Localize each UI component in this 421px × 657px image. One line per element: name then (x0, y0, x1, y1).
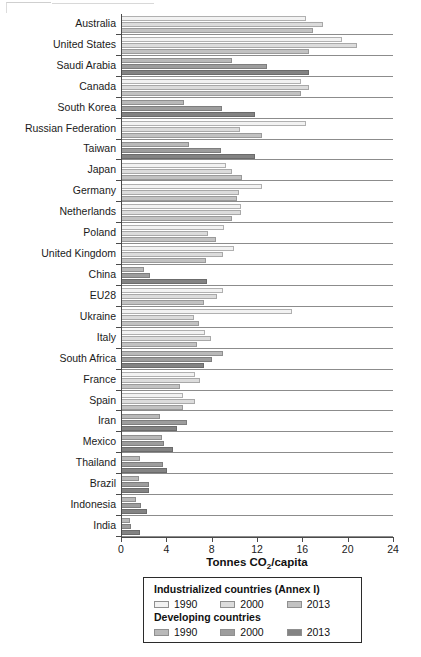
legend-group-title-developing: Developing countries (154, 611, 353, 624)
gridline (121, 327, 393, 328)
bar-indonesia-1990 (121, 497, 136, 502)
bar-thailand-2000 (121, 462, 163, 467)
category-label-russian-federation: Russian Federation (4, 123, 116, 134)
legend-swatch-developing-2013 (287, 629, 302, 636)
bar-united-kingdom-2013 (121, 258, 206, 263)
category-label-china: China (4, 269, 116, 280)
category-label-brazil: Brazil (4, 478, 116, 489)
x-tick-label-16: 16 (287, 543, 317, 555)
bar-south-korea-2000 (121, 106, 222, 111)
chart-legend: Industrialized countries (Annex I) 19902… (143, 577, 362, 643)
category-label-iran: Iran (4, 415, 116, 426)
bar-taiwan-2013 (121, 154, 255, 159)
category-label-indonesia: Indonesia (4, 499, 116, 510)
legend-group-title-industrialized: Industrialized countries (Annex I) (154, 583, 353, 596)
legend-item-industrialized-2000[interactable]: 2000 (220, 598, 286, 610)
x-tick-label-8: 8 (197, 543, 227, 555)
legend-row-developing: 199020002013 (154, 626, 353, 638)
bar-china-2013 (121, 279, 207, 284)
bar-canada-2013 (121, 91, 301, 96)
category-label-france: France (4, 374, 116, 385)
y-axis-tick (116, 431, 121, 432)
x-tick-24 (393, 537, 394, 542)
bar-indonesia-2013 (121, 509, 147, 514)
gridline (121, 243, 393, 244)
gridline (121, 348, 393, 349)
bar-india-2013 (121, 530, 140, 535)
gridline (121, 34, 393, 35)
bar-canada-2000 (121, 85, 309, 90)
legend-label-industrialized-2013: 2013 (307, 598, 330, 610)
x-tick-label-24: 24 (378, 543, 408, 555)
y-axis-line (121, 14, 122, 537)
y-axis-tick (116, 34, 121, 35)
y-axis-tick (116, 473, 121, 474)
bar-thailand-2013 (121, 468, 167, 473)
bar-south-korea-1990 (121, 100, 184, 105)
gridline (121, 222, 393, 223)
gridline (121, 201, 393, 202)
y-axis-tick (116, 243, 121, 244)
bar-france-1990 (121, 372, 195, 377)
legend-swatch-industrialized-2013 (287, 601, 302, 608)
category-label-united-states: United States (4, 39, 116, 50)
legend-item-developing-1990[interactable]: 1990 (154, 626, 220, 638)
x-tick-16 (302, 537, 303, 542)
x-tick-label-20: 20 (333, 543, 363, 555)
bar-japan-2013 (121, 175, 242, 180)
bar-russian-federation-2000 (121, 127, 240, 132)
bar-netherlands-1990 (121, 204, 241, 209)
y-axis-tick (116, 118, 121, 119)
bar-canada-1990 (121, 79, 301, 84)
bar-eu28-1990 (121, 288, 223, 293)
category-label-japan: Japan (4, 164, 116, 175)
y-axis-tick (116, 55, 121, 56)
bar-thailand-1990 (121, 456, 140, 461)
gridline (121, 76, 393, 77)
y-axis-tick (116, 180, 121, 181)
y-axis-tick (116, 390, 121, 391)
y-axis-tick (116, 76, 121, 77)
y-axis-tick (116, 264, 121, 265)
legend-swatch-industrialized-2000 (220, 601, 235, 608)
gridline (121, 180, 393, 181)
bar-italy-1990 (121, 330, 205, 335)
category-label-canada: Canada (4, 81, 116, 92)
legend-label-developing-1990: 1990 (174, 626, 197, 638)
gridline (121, 285, 393, 286)
legend-item-industrialized-2013[interactable]: 2013 (287, 598, 353, 610)
bar-eu28-2013 (121, 300, 204, 305)
bar-mexico-2000 (121, 441, 164, 446)
gridline (121, 97, 393, 98)
gridline (121, 410, 393, 411)
y-axis-tick (116, 327, 121, 328)
y-axis-tick (116, 410, 121, 411)
bar-poland-2013 (121, 237, 216, 242)
bar-mexico-1990 (121, 435, 162, 440)
category-label-netherlands: Netherlands (4, 206, 116, 217)
category-label-spain: Spain (4, 395, 116, 406)
legend-item-developing-2000[interactable]: 2000 (220, 626, 286, 638)
y-axis-tick (116, 306, 121, 307)
plot-area (121, 14, 393, 537)
bar-germany-1990 (121, 184, 262, 189)
category-label-united-kingdom: United Kingdom (4, 248, 116, 259)
y-axis-tick (116, 285, 121, 286)
y-axis-tick (116, 201, 121, 202)
category-label-mexico: Mexico (4, 436, 116, 447)
x-tick-20 (348, 537, 349, 542)
legend-label-industrialized-2000: 2000 (240, 598, 263, 610)
legend-item-developing-2013[interactable]: 2013 (287, 626, 353, 638)
legend-item-industrialized-1990[interactable]: 1990 (154, 598, 220, 610)
bar-australia-1990 (121, 16, 306, 21)
bar-brazil-1990 (121, 476, 139, 481)
bar-japan-1990 (121, 163, 226, 168)
bar-iran-2000 (121, 420, 187, 425)
bar-germany-2013 (121, 196, 237, 201)
bar-south-korea-2013 (121, 112, 255, 117)
bar-france-2000 (121, 378, 200, 383)
bar-russian-federation-2013 (121, 133, 262, 138)
x-tick-label-0: 0 (106, 543, 136, 555)
bar-netherlands-2013 (121, 216, 232, 221)
legend-label-developing-2000: 2000 (240, 626, 263, 638)
